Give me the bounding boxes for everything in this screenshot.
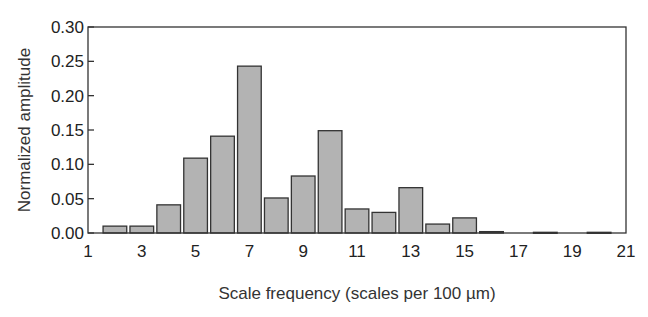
x-tick-label: 3 [137, 242, 146, 261]
bar-chart: 0.000.050.100.150.200.250.30 13579111315… [0, 0, 648, 317]
bar-2 [103, 226, 127, 233]
x-tick-label: 7 [245, 242, 254, 261]
bar-5 [184, 158, 208, 233]
plot-frame [88, 27, 626, 233]
bar-10 [318, 131, 342, 233]
x-tick-label: 21 [617, 242, 636, 261]
y-tick-label: 0.20 [51, 87, 84, 106]
x-tick-label: 1 [83, 242, 92, 261]
x-tick-label: 17 [509, 242, 528, 261]
y-tick-label: 0.15 [51, 121, 84, 140]
bar-12 [372, 212, 396, 233]
y-tick-label: 0.05 [51, 190, 84, 209]
bar-14 [426, 224, 450, 233]
y-tick-label: 0.00 [51, 224, 84, 243]
x-tick-label: 5 [191, 242, 200, 261]
bar-15 [453, 218, 477, 233]
bar-13 [399, 188, 423, 233]
x-axis: 13579111315171921 [83, 242, 635, 261]
bar-8 [264, 198, 288, 233]
bar-9 [291, 176, 315, 233]
x-tick-label: 15 [455, 242, 474, 261]
bar-4 [157, 205, 181, 233]
x-tick-label: 19 [563, 242, 582, 261]
y-tick-label: 0.30 [51, 18, 84, 37]
x-tick-label: 13 [401, 242, 420, 261]
y-tick-label: 0.25 [51, 52, 84, 71]
y-tick-label: 0.10 [51, 155, 84, 174]
x-tick-label: 9 [298, 242, 307, 261]
bar-6 [211, 136, 235, 233]
x-axis-title: Scale frequency (scales per 100 µm) [218, 284, 495, 303]
bar-7 [238, 66, 262, 233]
x-tick-label: 11 [348, 242, 366, 261]
y-axis-title: Normalized amplitude [15, 48, 34, 212]
bar-11 [345, 209, 369, 233]
bar-3 [130, 226, 154, 233]
bars-group [103, 66, 611, 233]
